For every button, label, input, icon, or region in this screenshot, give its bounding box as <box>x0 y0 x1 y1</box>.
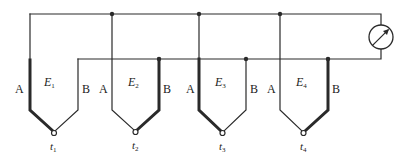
thermocouple-parallel-diagram: A B A B A B A B E1 E2 E3 E4 t1 t2 t3 t4 <box>0 0 404 161</box>
emf-label-4: E4 <box>295 75 307 90</box>
temp-label-1: t1 <box>50 140 57 154</box>
wire-label-a-2: A <box>99 82 108 96</box>
emf-label-2: E2 <box>127 75 139 90</box>
wire-label-b-4: B <box>332 82 340 96</box>
node-dot <box>244 57 248 61</box>
thermocouple-1 <box>30 14 78 131</box>
junction-4-icon <box>301 131 306 136</box>
junction-1-icon <box>52 131 57 136</box>
wire-label-a-3: A <box>186 82 195 96</box>
emf-label-3: E3 <box>214 75 226 90</box>
thermocouple-2 <box>112 14 159 130</box>
wire-label-a-1: A <box>15 82 24 96</box>
wire-label-b-3: B <box>250 82 258 96</box>
node-dot <box>278 12 282 16</box>
wire-label-b-2: B <box>163 82 171 96</box>
junction-3-icon <box>220 131 225 136</box>
wire-label-a-4: A <box>267 82 276 96</box>
emf-label-1: E1 <box>43 75 55 90</box>
node-dot <box>197 12 201 16</box>
top-bus-wire <box>30 14 381 25</box>
wire-label-b-1: B <box>82 82 90 96</box>
node-dot <box>110 12 114 16</box>
node-dot <box>326 57 330 61</box>
temp-label-2: t2 <box>132 139 139 153</box>
thermocouple-3 <box>199 14 246 131</box>
temp-label-3: t3 <box>219 140 226 154</box>
thermocouple-4 <box>280 14 328 131</box>
node-dot <box>157 57 161 61</box>
temp-label-4: t4 <box>300 140 307 154</box>
galvanometer-icon <box>369 25 393 49</box>
bottom-bus-wire <box>78 49 381 59</box>
junction-2-icon <box>133 130 138 135</box>
